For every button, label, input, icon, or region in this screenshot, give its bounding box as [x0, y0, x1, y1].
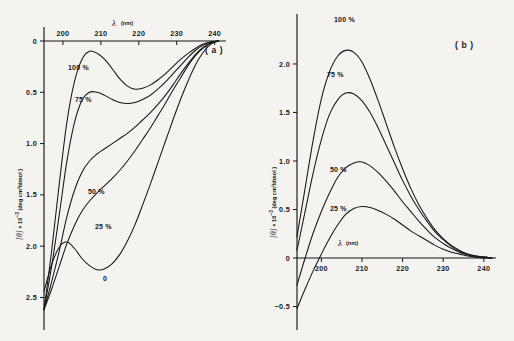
panel-a-curve-label: 25 %	[95, 223, 112, 230]
panel-a-y-axis-title: [θ] × 10−3 (deg cm²/dmol )	[14, 169, 24, 240]
panel-b-y-tick-label: 0.5	[279, 205, 290, 214]
panel-a-curve-label: 0	[103, 275, 107, 282]
svg-text:[θ] × 10−3 (deg cm²/dmol ): [θ] × 10−3 (deg cm²/dmol )	[14, 169, 24, 240]
svg-text:[θ] × 10−3 (deg cm²/dmol ): [θ] × 10−3 (deg cm²/dmol )	[268, 167, 278, 238]
panel-a-curve	[44, 41, 218, 310]
panel-a-x-unit: (nm)	[121, 20, 133, 26]
panel-b-x-tick-labels: 200210220230240	[315, 264, 490, 273]
panel-b-y-unit: (deg cm²/dmol )	[271, 167, 277, 210]
panel-b-curve-label: 75 %	[327, 71, 344, 78]
panel-b-curve-labels: 100 %75 %50 %25 %	[327, 16, 355, 212]
panel-a-tag: ( a )	[205, 45, 223, 55]
panel-a-x-tick-labels: 200210220230240	[57, 29, 222, 38]
panel-b-y-tick-label: −0.5	[275, 302, 290, 311]
panel-b-curve-label: 100 %	[334, 16, 355, 23]
panel-a-x-tick-label: 230	[170, 29, 183, 38]
panel-b-tag: ( b )	[455, 40, 474, 50]
panel-b-y-mid: × 10	[271, 216, 277, 229]
panel-a-y-tick-label: 1.0	[26, 139, 37, 148]
panel-a-curve	[44, 41, 218, 291]
plot-canvas: 200210220230240 00.51.01.52.02.5 λ (nm) …	[0, 0, 514, 341]
panel-a-curves	[44, 41, 218, 310]
panel-a-y-tick-label: 2.0	[26, 242, 37, 251]
panel-b-y-tick-label: 1.0	[279, 157, 290, 166]
panel-b-curve	[297, 93, 492, 258]
panel-a-y-unit: (deg cm²/dmol )	[17, 169, 23, 212]
panel-b-curve-label: 25 %	[330, 205, 347, 212]
panel-a-y-ticks	[40, 41, 44, 297]
panel-a-x-axis-title: λ (nm)	[111, 18, 133, 28]
cd-spectra-figure: ( a ) ( b ) 200210220230240 00.51.01.52.…	[0, 0, 514, 341]
panel-a-curve-label: 75 %	[75, 96, 92, 103]
panel-a-x-ticks	[63, 41, 215, 45]
panel-b-y-tick-label: 2.0	[279, 60, 290, 69]
panel-b-lambda-symbol: λ	[337, 238, 342, 248]
panel-b-curve	[297, 50, 492, 258]
panel-b-x-tick-label: 230	[437, 264, 450, 273]
panel-b-x-ticks	[321, 258, 483, 262]
panel-a-curve-label: 100 %	[68, 64, 89, 71]
panel-b-x-tick-label: 220	[396, 264, 409, 273]
panel-b-x-unit: (nm)	[346, 240, 358, 246]
panel-a-theta-symbol: [θ]	[15, 230, 24, 240]
panel-b-x-axis-title: λ (nm)	[337, 238, 358, 248]
panel-a-y-tick-label: 0.5	[26, 88, 37, 97]
panel-a-group: 200210220230240 00.51.01.52.02.5 λ (nm) …	[14, 18, 226, 330]
panel-b-curve-label: 50 %	[330, 166, 347, 173]
panel-a-y-tick-label: 1.5	[26, 190, 37, 199]
panel-a-curve	[44, 41, 218, 310]
panel-a-x-tick-label: 220	[132, 29, 145, 38]
panel-a-lambda-symbol: λ	[111, 18, 116, 28]
panel-a-x-tick-label: 200	[57, 29, 70, 38]
panel-b-y-axis-title: [θ] × 10−3 (deg cm²/dmol )	[268, 167, 278, 238]
panel-b-x-tick-label: 200	[315, 264, 328, 273]
panel-a-y-mid: × 10	[17, 218, 23, 231]
panel-b-y-tick-label: 1.5	[279, 108, 290, 117]
panel-a-y-tick-label: 2.5	[26, 293, 37, 302]
panel-b-x-tick-label: 240	[477, 264, 490, 273]
panel-a-curve-label: 50 %	[88, 188, 105, 195]
panel-b-y-ticks	[293, 64, 297, 307]
panel-a-curve	[44, 41, 218, 310]
panel-a-y-tick-label: 0	[33, 37, 37, 46]
panel-a-y-tick-labels: 00.51.01.52.02.5	[26, 37, 37, 302]
panel-b-group: 200210220230240 −0.500.51.01.52.0 λ (nm)…	[268, 14, 496, 330]
panel-b-x-tick-label: 210	[356, 264, 369, 273]
panel-b-y-tick-label: 0	[286, 254, 290, 263]
panel-a-curve	[44, 41, 218, 310]
panel-b-theta-symbol: [θ]	[269, 228, 278, 238]
panel-a-x-tick-label: 240	[208, 29, 221, 38]
panel-a-x-tick-label: 210	[94, 29, 107, 38]
